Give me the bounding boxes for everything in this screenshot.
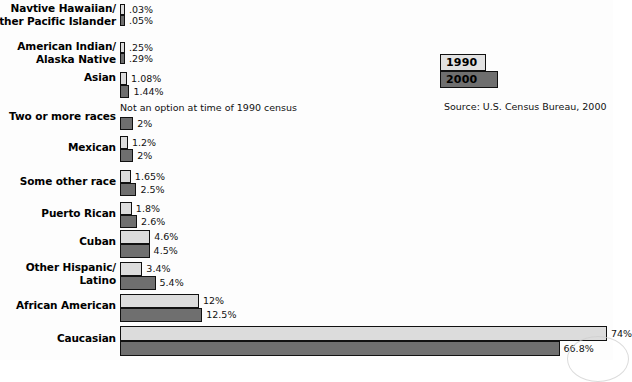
source-note: Source: U.S. Census Bureau, 2000 <box>444 101 606 112</box>
category-label-line: American Indian/ <box>0 40 116 53</box>
category-label: Some other race <box>0 175 116 188</box>
bar-value-2000: 12.5% <box>206 309 236 320</box>
bar-1990 <box>120 294 199 308</box>
category-label-line: Mexican <box>0 141 116 154</box>
bar-2000 <box>120 149 133 162</box>
bar-2000 <box>120 183 136 196</box>
bar-1990 <box>120 170 131 183</box>
bar-value-2000: .29% <box>129 53 153 64</box>
bar-2000 <box>120 117 133 130</box>
bar-value-1990: 1.08% <box>131 73 161 84</box>
bar-value-2000: 2% <box>137 118 152 129</box>
category-label-line: Other Hispanic/ <box>0 261 116 274</box>
category-label-line: Caucasian <box>0 332 116 345</box>
bar-1990 <box>120 262 142 276</box>
category-label-line: Latino <box>0 274 116 287</box>
category-label-line: Asian <box>0 71 116 84</box>
category-label-line: African American <box>0 299 116 312</box>
category-label-line: Puerto Rican <box>0 207 116 220</box>
bar-value-2000: 2.6% <box>141 216 165 227</box>
category-label-line: Alaska Native <box>0 53 116 66</box>
bar-2000 <box>120 215 137 228</box>
bar-1990 <box>120 72 127 85</box>
bar-value-1990: 74% <box>611 328 632 339</box>
bar-value-1990: .25% <box>129 42 153 53</box>
bar-value-1990: .03% <box>129 4 153 15</box>
bar-value-2000: 5.4% <box>160 277 184 288</box>
bar-2000 <box>120 15 125 26</box>
bar-1990 <box>120 136 128 149</box>
category-label-line: Navtive Hawaiian/ <box>0 2 116 15</box>
category-label: Cuban <box>0 235 116 248</box>
bar-value-2000: .05% <box>129 15 153 26</box>
bar-1990 <box>120 42 125 53</box>
category-label-line: Other Pacific Islander <box>0 15 116 28</box>
bar-2000 <box>120 308 202 322</box>
category-label: American Indian/Alaska Native <box>0 40 116 65</box>
bar-1990 <box>120 326 607 341</box>
category-label: Navtive Hawaiian/Other Pacific Islander <box>0 2 116 27</box>
legend-item-2000: 2000 <box>440 71 498 88</box>
category-label: Puerto Rican <box>0 207 116 220</box>
corner-arc-decoration <box>567 336 629 382</box>
category-label: Mexican <box>0 141 116 154</box>
bar-2000 <box>120 85 129 98</box>
bar-2000 <box>120 341 560 356</box>
category-label: Asian <box>0 71 116 84</box>
category-label: African American <box>0 299 116 312</box>
bar-1990 <box>120 230 150 244</box>
no-data-annotation: Not an option at time of 1990 census <box>120 102 297 113</box>
bar-value-1990: 1.2% <box>132 137 156 148</box>
chart-legend: 1990 2000 <box>440 54 498 88</box>
category-label-line: Two or more races <box>0 110 116 123</box>
bar-value-1990: 4.6% <box>154 231 178 242</box>
bar-1990 <box>120 4 125 15</box>
category-label-line: Some other race <box>0 175 116 188</box>
bar-value-2000: 2.5% <box>140 184 164 195</box>
bar-2000 <box>120 244 150 258</box>
bar-value-1990: 1.8% <box>136 203 160 214</box>
bar-value-1990: 3.4% <box>146 263 170 274</box>
bar-value-2000: 2% <box>137 150 152 161</box>
legend-item-1990: 1990 <box>440 54 486 71</box>
category-label-line: Cuban <box>0 235 116 248</box>
bar-2000 <box>120 276 156 290</box>
category-label: Caucasian <box>0 332 116 345</box>
category-label: Two or more races <box>0 110 116 123</box>
bar-2000 <box>120 53 125 64</box>
category-label: Other Hispanic/Latino <box>0 261 116 286</box>
bar-1990 <box>120 202 132 215</box>
bar-value-1990: 12% <box>203 295 224 306</box>
bar-value-1990: 1.65% <box>135 171 165 182</box>
bar-value-2000: 1.44% <box>133 86 163 97</box>
bar-value-2000: 4.5% <box>154 245 178 256</box>
